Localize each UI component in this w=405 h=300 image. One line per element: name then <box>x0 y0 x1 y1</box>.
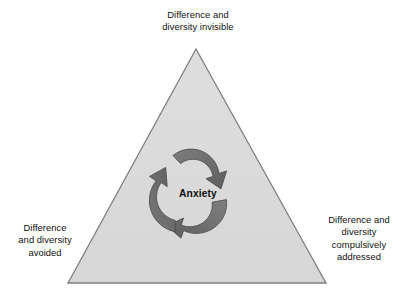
triangle-shape <box>68 49 326 283</box>
diagram-canvas: Difference and diversity invisible Diffe… <box>0 0 405 300</box>
label-difference-diversity-avoided: Difference and diversity avoided <box>2 222 88 259</box>
label-difference-diversity-compulsively-addressed: Difference and diversity compulsively ad… <box>314 214 404 264</box>
label-difference-diversity-invisible: Difference and diversity invisible <box>118 9 278 34</box>
center-label-anxiety: Anxiety <box>142 188 254 199</box>
